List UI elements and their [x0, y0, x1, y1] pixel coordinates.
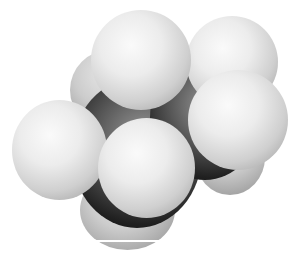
divider-line	[93, 240, 159, 242]
molecule-model	[0, 0, 307, 269]
hydrogen-atom-front	[98, 118, 195, 218]
hydrogen-atom-left	[12, 100, 107, 200]
hydrogen-atom-right	[188, 70, 288, 170]
hydrogen-atom-top-center	[91, 10, 191, 110]
